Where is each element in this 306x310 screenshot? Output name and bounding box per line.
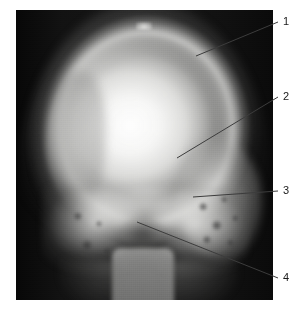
radiograph-figure: 1 2 3 4: [0, 0, 306, 310]
annotation-label-4: 4: [283, 272, 289, 283]
film-grain-overlay: [16, 10, 273, 300]
annotation-label-2: 2: [283, 91, 289, 102]
annotation-label-1: 1: [283, 16, 289, 27]
annotation-label-3: 3: [283, 185, 289, 196]
radiograph-image: [16, 10, 273, 300]
